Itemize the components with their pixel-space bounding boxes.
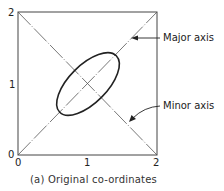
x-tick-2: 2 — [153, 158, 159, 168]
figure-caption: (a) Original co-ordinates — [30, 174, 157, 185]
minor-axis-leader — [133, 106, 160, 118]
major-axis-label: Major axis — [163, 33, 214, 43]
arrow-icon — [131, 36, 138, 41]
y-tick-0: 0 — [8, 150, 14, 160]
x-tick-1: 1 — [84, 158, 90, 168]
coordinate-diagram — [0, 0, 224, 191]
x-tick-0: 0 — [15, 158, 21, 168]
y-tick-1: 1 — [9, 80, 15, 90]
y-tick-2: 2 — [8, 8, 14, 18]
minor-axis-label: Minor axis — [163, 101, 214, 111]
